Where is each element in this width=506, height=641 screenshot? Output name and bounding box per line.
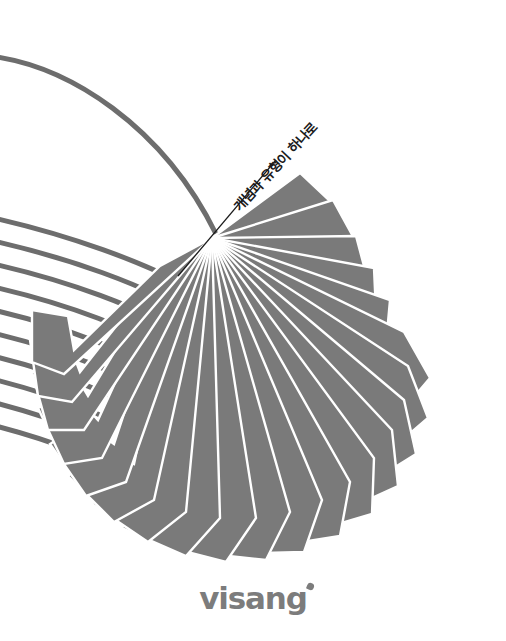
top-sweep-curve [0, 55, 216, 234]
publisher-logo: visang [0, 583, 506, 614]
fan-pages [30, 173, 430, 562]
visang-logo-wrap: visang [199, 583, 306, 614]
visang-logo-text: visang [199, 580, 306, 616]
visang-dot-icon [306, 582, 315, 591]
fanned-book-pages-artwork [0, 0, 506, 641]
book-cover: 개념과 유형이 하나로 visang [0, 0, 506, 641]
